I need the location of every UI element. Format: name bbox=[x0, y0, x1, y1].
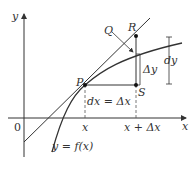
dy-label: dy bbox=[164, 54, 178, 67]
label-q: Q bbox=[104, 24, 113, 37]
origin-label: 0 bbox=[14, 121, 21, 134]
x-axis-label: x bbox=[182, 120, 189, 133]
y-axis-label: y bbox=[11, 10, 19, 23]
q-pointer bbox=[112, 32, 133, 52]
label-s: S bbox=[138, 86, 146, 99]
curve-label: y = f(x) bbox=[51, 140, 93, 153]
point-r bbox=[134, 34, 138, 38]
x-plus-dx-tick-label: x + Δx bbox=[124, 121, 161, 134]
delta-y-label: Δy bbox=[142, 63, 158, 76]
differential-diagram: y x 0 P Q R S dx = Δx Δy dy x x + Δx y =… bbox=[0, 0, 196, 169]
label-p: P bbox=[75, 76, 84, 89]
label-r: R bbox=[127, 21, 136, 34]
x-tick-label: x bbox=[82, 121, 89, 134]
dx-label: dx = Δx bbox=[87, 95, 131, 108]
point-p bbox=[83, 83, 87, 87]
diagram-svg: y x 0 P Q R S dx = Δx Δy dy x x + Δx y =… bbox=[0, 0, 196, 169]
delta-y-bracket bbox=[136, 54, 140, 85]
